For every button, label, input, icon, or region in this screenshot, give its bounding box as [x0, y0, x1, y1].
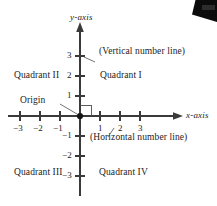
origin-leader-line	[60, 104, 77, 114]
x-tick-label-neg3: −3	[13, 124, 23, 133]
x-axis-arrowhead	[173, 112, 183, 120]
quadrant-label-iv: Quadrant IV	[99, 168, 148, 178]
y-tick-label-3: 3	[67, 51, 72, 60]
vertical-number-line-annotation: (Vertical number line)	[99, 47, 185, 57]
x-tick-label-neg2: −2	[33, 124, 43, 133]
horizontal-number-line-annotation: (Horizontal number line)	[90, 133, 187, 143]
y-axis-label: y-axis	[70, 13, 93, 22]
y-tick-label-neg1: −1	[62, 131, 72, 140]
quadrant-label-ii: Quadrant II	[14, 71, 59, 81]
vertical-annotation-leader-line	[84, 57, 95, 62]
y-tick-label-neg2: −2	[62, 151, 72, 160]
origin-point	[77, 113, 83, 119]
quadrant-label-i: Quadrant I	[100, 71, 142, 81]
x-axis-label: x-axis	[186, 111, 209, 120]
y-tick-label-1: 1	[67, 91, 72, 100]
origin-label: Origin	[20, 96, 45, 106]
quadrant-label-iii: Quadrant III	[14, 168, 62, 178]
coordinate-plane-figure: y-axis x-axis −3 −2 −1 1 2 3 3 2 1 −1 −2…	[0, 0, 217, 206]
y-tick-label-2: 2	[67, 71, 72, 80]
y-tick-label-neg3: −3	[62, 171, 72, 180]
y-axis-arrowhead	[76, 22, 84, 32]
